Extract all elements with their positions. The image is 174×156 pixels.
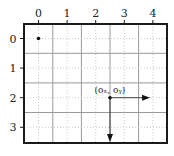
y-axis-ticks: 0123 [10,33,25,135]
grid-solid-lines [24,24,167,143]
x-tick-label: 0 [35,7,42,20]
x-tick-label: 1 [64,7,71,20]
y-tick-label: 0 [10,33,17,46]
grid-diagram: 01234 0123 (oₓ, oᵧ) [0,0,174,156]
y-tick-label: 2 [10,92,17,105]
x-tick-label: 2 [92,7,99,20]
marks: (oₓ, oᵧ) [37,37,150,142]
offset-point [108,96,112,100]
plot-frame [24,24,167,143]
y-tick-label: 1 [10,62,17,75]
grid-dotted-lines [24,24,167,143]
x-tick-label: 3 [121,7,128,20]
origin-point [37,37,41,41]
arrow-right-head [142,95,150,101]
x-tick-label: 4 [149,7,156,20]
arrow-down-head [107,134,113,142]
y-tick-label: 3 [10,121,17,134]
offset-point-label: (oₓ, oᵧ) [95,85,126,95]
x-axis-ticks: 01234 [35,7,156,24]
